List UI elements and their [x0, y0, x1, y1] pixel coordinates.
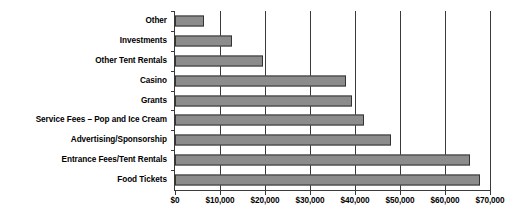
category-tick-mark [171, 31, 175, 32]
value-tick-label: $10,000 [206, 196, 235, 205]
category-tick-mark [171, 130, 175, 131]
value-tick-mark [265, 190, 266, 195]
value-tick-label: $50,000 [386, 196, 415, 205]
category-tick-mark [171, 110, 175, 111]
value-tick-mark [175, 190, 176, 195]
value-tick-label: $20,000 [251, 196, 280, 205]
category-label: Advertising/Sponsorship [71, 135, 167, 145]
value-tick-mark [220, 190, 221, 195]
category-label: Other Tent Rentals [95, 56, 167, 66]
bar [175, 175, 480, 186]
bar [175, 115, 364, 126]
bar [175, 135, 391, 146]
bar [175, 15, 204, 26]
category-label: Entrance Fees/Tent Rentals [62, 155, 167, 165]
category-tick-mark [171, 11, 175, 12]
value-tick-label: $40,000 [341, 196, 370, 205]
bar [175, 75, 346, 86]
bar [175, 35, 232, 46]
category-label: Investments [120, 36, 167, 46]
category-tick-mark [171, 170, 175, 171]
plot-area [175, 11, 490, 190]
value-tick-mark [400, 190, 401, 195]
value-tick-mark [310, 190, 311, 195]
bar [175, 55, 263, 66]
category-label: Food Tickets [117, 175, 167, 185]
value-tick-label: $70,000 [476, 196, 505, 205]
value-tick-mark [490, 190, 491, 195]
bar [175, 155, 470, 166]
category-tick-mark [171, 91, 175, 92]
value-tick-mark [355, 190, 356, 195]
category-axis-labels: OtherInvestmentsOther Tent RentalsCasino… [0, 0, 173, 222]
bar [175, 95, 352, 106]
category-label: Service Fees – Pop and Ice Cream [36, 115, 167, 125]
category-tick-mark [171, 150, 175, 151]
category-label: Casino [140, 76, 167, 86]
gridline [490, 11, 491, 190]
value-axis-tick-labels: $0$10,000$20,000$30,000$40,000$50,000$60… [0, 196, 530, 212]
category-axis-line [174, 190, 490, 191]
value-tick-label: $60,000 [431, 196, 460, 205]
value-tick-label: $30,000 [296, 196, 325, 205]
category-label: Other [145, 16, 167, 26]
category-tick-mark [171, 51, 175, 52]
bar-chart: OtherInvestmentsOther Tent RentalsCasino… [0, 0, 530, 222]
value-tick-mark [445, 190, 446, 195]
category-tick-mark [171, 71, 175, 72]
category-label: Grants [141, 96, 167, 106]
value-tick-label: $0 [171, 196, 180, 205]
